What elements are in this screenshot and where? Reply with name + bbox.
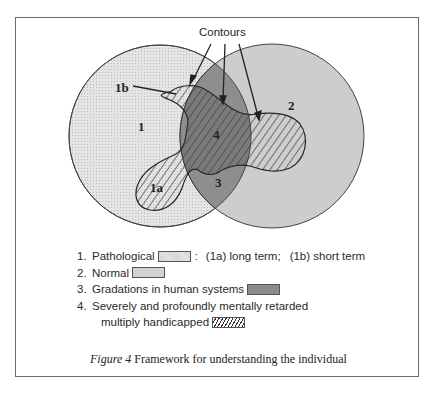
legend-item-gradations: 3. Gradations in human systems [77,281,365,298]
contours-label: Contours [199,26,246,38]
label-4: 4 [213,127,220,143]
label-1a: 1a [150,180,163,196]
swatch-pathological [158,251,191,262]
legend: 1. Pathological : (1a) long term; (1b) s… [77,248,365,331]
figure-caption: Figure 4 Framework for understanding the… [90,352,347,367]
swatch-hatched [212,317,245,328]
legend-item-normal: 2. Normal [77,265,365,282]
figure-number: Figure 4 [90,352,131,366]
legend-item-severe: 4. Severely and profoundly mentally reta… [77,298,365,315]
figure-title: Framework for understanding the individu… [134,352,347,366]
venn-diagram [0,0,432,393]
legend-item-severe-line2: multiply handicapped [77,314,365,331]
legend-item-pathological: 1. Pathological : (1a) long term; (1b) s… [77,248,365,265]
label-2: 2 [288,98,295,114]
swatch-gradations [247,284,280,295]
label-3: 3 [215,175,222,191]
label-1: 1 [138,119,145,135]
swatch-normal [132,267,165,278]
label-1b: 1b [115,80,129,96]
